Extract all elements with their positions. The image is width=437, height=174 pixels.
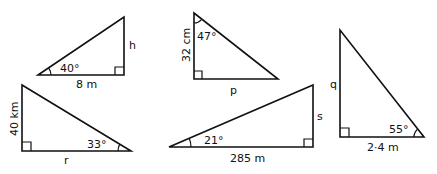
side-base-label: 8 m xyxy=(76,78,97,91)
angle-label: 55° xyxy=(389,123,409,136)
triangle-4: 21° 285 m s xyxy=(169,85,323,165)
angle-arc xyxy=(194,20,201,23)
triangle-1: 40° 8 m h xyxy=(38,17,136,91)
triangle-5: 55° q 2·4 m xyxy=(330,30,424,154)
right-angle-marker xyxy=(194,71,202,79)
angle-label: 40° xyxy=(60,62,80,75)
side-vertical-label: q xyxy=(330,78,337,91)
side-base-label: p xyxy=(230,84,237,97)
side-base-label: 2·4 m xyxy=(367,141,399,154)
angle-label: 33° xyxy=(87,138,107,151)
side-vertical-label: h xyxy=(129,39,136,52)
right-angle-marker xyxy=(22,142,31,151)
angle-arc xyxy=(414,129,418,137)
angle-label: 21° xyxy=(204,134,224,147)
triangle-3: 33° 40 km r xyxy=(8,85,131,167)
side-vertical-label: 32 cm xyxy=(180,28,193,62)
angle-arc xyxy=(118,144,120,151)
side-vertical-label: 40 km xyxy=(8,101,21,136)
triangles-diagram: 40° 8 m h 47° 32 cm p 33° 40 km r 21° 28… xyxy=(0,0,437,174)
angle-arc xyxy=(49,68,51,75)
angle-label: 47° xyxy=(197,30,217,43)
side-base-label: r xyxy=(64,154,69,167)
right-angle-marker xyxy=(340,128,349,137)
right-angle-marker xyxy=(115,67,124,75)
right-angle-marker xyxy=(304,139,313,147)
side-base-label: 285 m xyxy=(230,152,265,165)
side-vertical-label: s xyxy=(317,110,323,123)
angle-arc xyxy=(189,138,191,147)
triangle-2: 47° 32 cm p xyxy=(180,13,278,97)
